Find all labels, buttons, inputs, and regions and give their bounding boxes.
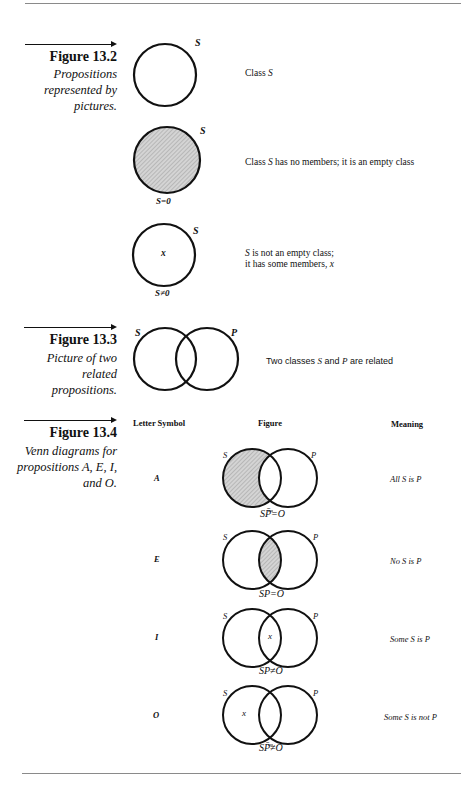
row-i-formula: SP≠O <box>259 665 283 676</box>
row-a-s-label: S <box>223 450 227 460</box>
row-a-p-label: P <box>311 450 316 460</box>
nonempty-description-line1: S is not an empty class; <box>245 248 334 258</box>
venn-o <box>223 686 317 744</box>
row-a-formula: SP̄=O <box>260 508 285 519</box>
row-e-p-label: P <box>313 532 318 542</box>
row-e-meaning: No S is P <box>390 556 421 566</box>
venn-diagrams <box>0 0 463 791</box>
circle-2-label: S <box>200 125 206 136</box>
member-x-mark: x <box>161 248 166 258</box>
class-s-circle <box>134 44 196 106</box>
row-o-meaning: Some S is not P <box>384 712 437 722</box>
row-a-symbol: A <box>154 473 160 483</box>
row-i-symbol: I <box>155 632 158 642</box>
row-i-s-label: S <box>223 611 227 621</box>
circle-3-sublabel: S≠0 <box>155 288 169 298</box>
row-a-meaning: All S is P <box>390 474 421 484</box>
circle-2-sublabel: S=0 <box>156 196 171 206</box>
header-meaning: Meaning <box>391 419 423 429</box>
row-i-member-mark: x <box>268 631 272 641</box>
venn-s-label: S <box>135 327 141 338</box>
empty-class-description: Class S has no members; it is an empty c… <box>245 157 414 167</box>
row-e-s-label: S <box>223 532 227 542</box>
row-i-p-label: P <box>313 611 318 621</box>
venn-e <box>223 531 317 589</box>
empty-class-circle <box>134 127 200 193</box>
row-o-symbol: O <box>153 710 159 720</box>
circle-3-label: S <box>193 225 199 236</box>
venn-p-label: P <box>231 327 237 338</box>
row-o-s-label: S <box>223 688 227 698</box>
two-classes-description: Two classes S and P are related <box>266 356 393 366</box>
row-o-member-mark: x <box>242 708 246 718</box>
row-i-meaning: Some S is P <box>390 634 430 644</box>
row-e-formula: SP=O <box>259 588 284 599</box>
nonempty-description-line2: it has some members, x <box>245 259 334 269</box>
row-o-formula: SP̄≠O <box>259 742 283 753</box>
class-s-description: Class S <box>245 68 273 78</box>
row-e-symbol: E <box>154 554 160 564</box>
two-classes-venn <box>134 328 238 390</box>
header-letter-symbol: Letter Symbol <box>133 418 185 428</box>
header-figure: Figure <box>258 418 282 428</box>
row-o-p-label: P <box>313 688 318 698</box>
venn-a <box>223 449 317 507</box>
circle-1-label: S <box>195 37 201 48</box>
